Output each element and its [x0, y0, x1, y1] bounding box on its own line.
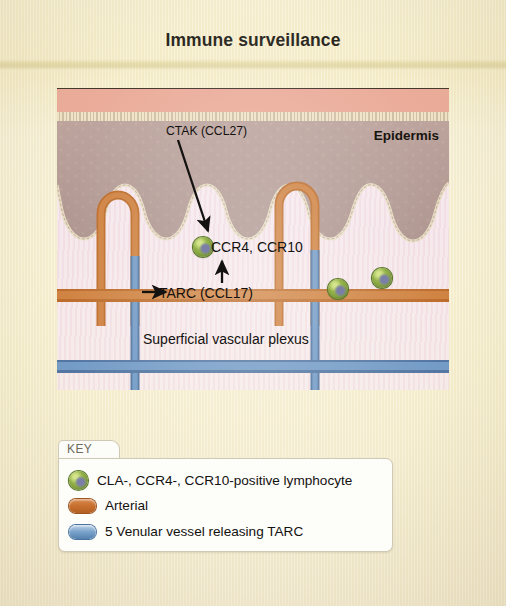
key-item-venular: 5 Venular vessel releasing TARC: [69, 524, 303, 539]
key-item-label: Arterial: [105, 498, 148, 513]
page-title: Immune surveillance: [0, 30, 506, 51]
lymphocyte-cell: [372, 268, 392, 288]
key-item-label: 5 Venular vessel releasing TARC: [105, 524, 303, 539]
superficial-vascular-plexus-label: Superficial vascular plexus: [143, 331, 309, 347]
title-underband: [0, 59, 506, 70]
diagram-page: Immune surveillance: [0, 0, 506, 606]
arterial-capillary-loop-left: [101, 195, 135, 326]
lymphocyte-cell: [193, 237, 213, 257]
lymphocyte-swatch-icon: [69, 471, 88, 490]
key-legend: KEY CLA-, CCR4-, CCR10-positive lymphocy…: [58, 440, 393, 552]
ctak-label: CTAK (CCL27): [166, 124, 247, 138]
arterial-capillary-loop-right: [279, 186, 315, 326]
tarc-label: TARC (CCL17): [159, 285, 253, 301]
key-item-arterial: Arterial: [69, 498, 148, 513]
lymphocyte-cell: [328, 279, 348, 299]
key-item-label: CLA-, CCR4-, CCR10-positive lymphocyte: [97, 473, 352, 488]
epidermis-label: Epidermis: [374, 128, 439, 143]
receptor-label: CCR4, CCR10: [211, 239, 303, 255]
key-tab-label: KEY: [67, 442, 92, 456]
arterial-swatch-icon: [69, 499, 96, 513]
venular-swatch-icon: [69, 525, 96, 539]
key-item-lymphocyte: CLA-, CCR4-, CCR10-positive lymphocyte: [69, 471, 352, 490]
